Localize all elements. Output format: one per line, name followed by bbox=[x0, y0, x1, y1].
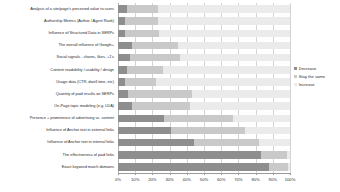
x-axis-tick-label: 60% bbox=[217, 177, 225, 182]
bar-segment-increase bbox=[287, 151, 290, 159]
bar-segment-decrease bbox=[118, 78, 125, 86]
bar-segment-increase bbox=[259, 139, 290, 147]
gridline bbox=[290, 3, 291, 173]
x-axis-tick-label: 0% bbox=[115, 177, 121, 182]
legend-swatch-decrease bbox=[294, 67, 297, 70]
bar-segment-decrease bbox=[118, 127, 171, 135]
bar-row bbox=[118, 127, 290, 135]
bar-row bbox=[118, 5, 290, 13]
bar-row bbox=[118, 17, 290, 25]
bar-row bbox=[118, 42, 290, 50]
bar-segment-increase bbox=[156, 78, 290, 86]
bar-row bbox=[118, 66, 290, 74]
bar-segment-increase bbox=[158, 5, 290, 13]
bar-segment-stay-the-same bbox=[132, 102, 190, 110]
x-axis-tick bbox=[221, 173, 222, 175]
legend-label: Stay the same bbox=[299, 74, 325, 79]
bar-segment-increase bbox=[288, 163, 290, 171]
category-label: Analysis of a site/page's perceived valu… bbox=[0, 7, 114, 11]
gridline bbox=[118, 3, 119, 173]
bar-segment-increase bbox=[192, 90, 290, 98]
category-label: Influence of Structured Data in SERPs bbox=[0, 31, 114, 35]
bar-row bbox=[118, 102, 290, 110]
x-axis-tick bbox=[273, 173, 274, 175]
category-label: On-Page topic modeling (e.g. LDA) bbox=[0, 104, 114, 108]
x-axis-tick bbox=[135, 173, 136, 175]
legend-label: Increase bbox=[299, 82, 315, 87]
bar-row bbox=[118, 90, 290, 98]
gridline bbox=[135, 3, 136, 173]
bar-segment-increase bbox=[180, 54, 290, 62]
legend-swatch-increase bbox=[294, 83, 297, 86]
x-axis-tick-label: 90% bbox=[269, 177, 277, 182]
bar-segment-increase bbox=[190, 102, 290, 110]
category-label: Social signals - shares, likes, +1's bbox=[0, 55, 114, 59]
bar-segment-stay-the-same bbox=[125, 17, 158, 25]
legend-swatch-stay-the-same bbox=[294, 75, 297, 78]
category-label: The effectiveness of paid links bbox=[0, 153, 114, 157]
bar-segment-increase bbox=[245, 127, 290, 135]
gridline bbox=[221, 3, 222, 173]
category-label: Presence + prominence of advertising vs.… bbox=[0, 116, 114, 120]
gridline bbox=[238, 3, 239, 173]
x-axis-tick bbox=[290, 173, 291, 175]
x-axis-tick bbox=[152, 173, 153, 175]
legend-item[interactable]: Decrease bbox=[294, 66, 340, 71]
bar-segment-decrease bbox=[118, 102, 132, 110]
bar-segment-decrease bbox=[118, 163, 269, 171]
stacked-bar-chart: Analysis of a site/page's perceived valu… bbox=[0, 0, 340, 192]
x-axis-tick-label: 80% bbox=[251, 177, 259, 182]
bar-segment-decrease bbox=[118, 90, 128, 98]
x-axis-tick bbox=[204, 173, 205, 175]
bar-segment-stay-the-same bbox=[127, 66, 163, 74]
category-label: Usage data (CTR, dwell time, etc) bbox=[0, 80, 114, 84]
x-axis-tick bbox=[118, 173, 119, 175]
legend-label: Decrease bbox=[299, 66, 317, 71]
bar-segment-stay-the-same bbox=[125, 30, 159, 38]
bar-segment-decrease bbox=[118, 5, 127, 13]
chart-legend: DecreaseStay the sameIncrease bbox=[294, 66, 340, 91]
bar-segment-increase bbox=[163, 66, 290, 74]
bar-segment-stay-the-same bbox=[171, 127, 245, 135]
bar-row bbox=[118, 151, 290, 159]
bar-segment-stay-the-same bbox=[164, 115, 233, 123]
bar-segment-decrease bbox=[118, 66, 127, 74]
bar-row bbox=[118, 78, 290, 86]
category-label: Authorship Metrics (Author / Agent Rank) bbox=[0, 19, 114, 23]
x-axis-tick-label: 40% bbox=[183, 177, 191, 182]
bar-segment-increase bbox=[158, 17, 290, 25]
bar-segment-stay-the-same bbox=[194, 139, 259, 147]
category-axis-labels: Analysis of a site/page's perceived valu… bbox=[0, 3, 116, 173]
bar-segment-decrease bbox=[118, 139, 194, 147]
bar-segment-stay-the-same bbox=[127, 5, 158, 13]
category-label: Content readability / usability / design bbox=[0, 68, 114, 72]
bar-segment-stay-the-same bbox=[269, 163, 288, 171]
legend-item[interactable]: Stay the same bbox=[294, 74, 340, 79]
bar-segment-decrease bbox=[118, 42, 132, 50]
category-label: Quantity of paid results on SERPs bbox=[0, 92, 114, 96]
plot-area bbox=[118, 3, 290, 173]
bar-row bbox=[118, 163, 290, 171]
bar-segment-stay-the-same bbox=[132, 42, 178, 50]
x-axis-tick bbox=[187, 173, 188, 175]
category-label: Exact keyword match domains bbox=[0, 165, 114, 169]
bar-segment-stay-the-same bbox=[125, 78, 156, 86]
x-axis-tick-label: 50% bbox=[200, 177, 208, 182]
bar-row bbox=[118, 54, 290, 62]
gridline bbox=[170, 3, 171, 173]
bar-segment-increase bbox=[178, 42, 290, 50]
x-axis-tick-label: 30% bbox=[165, 177, 173, 182]
bar-segment-decrease bbox=[118, 151, 261, 159]
x-axis-tick bbox=[170, 173, 171, 175]
bar-segment-increase bbox=[233, 115, 290, 123]
bar-row bbox=[118, 139, 290, 147]
gridline bbox=[204, 3, 205, 173]
bar-segment-decrease bbox=[118, 17, 125, 25]
bar-row bbox=[118, 115, 290, 123]
legend-item[interactable]: Increase bbox=[294, 82, 340, 87]
bar-segment-decrease bbox=[118, 54, 130, 62]
category-label: Influence of Anchor text in internal lin… bbox=[0, 140, 114, 144]
bar-segment-increase bbox=[159, 30, 290, 38]
bar-segment-decrease bbox=[118, 115, 164, 123]
gridline bbox=[152, 3, 153, 173]
